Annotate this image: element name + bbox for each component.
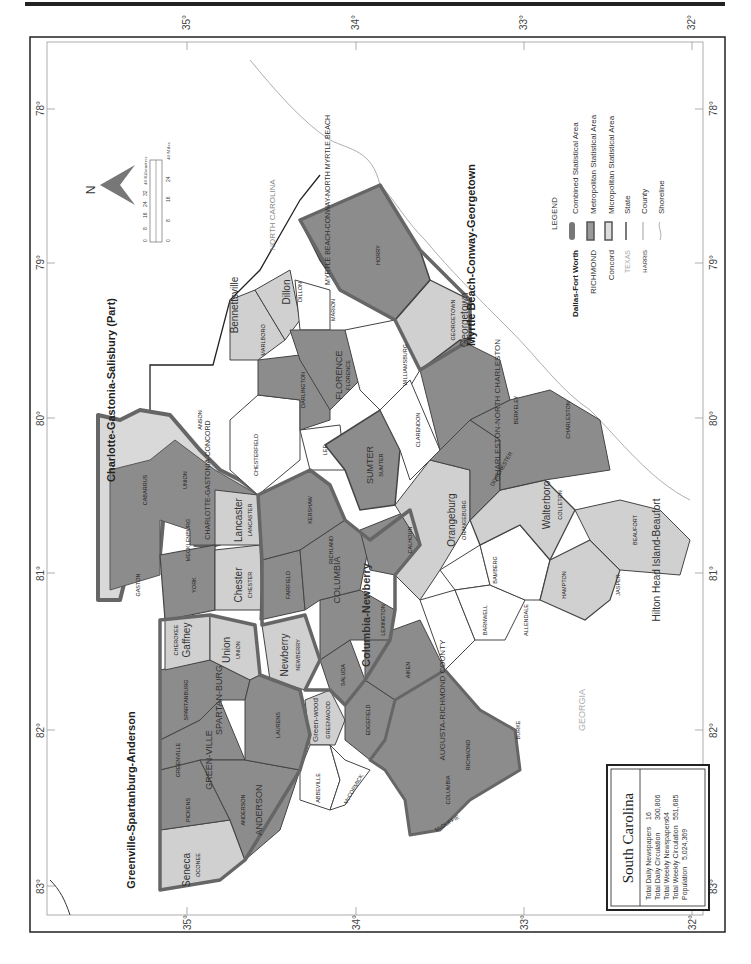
label-richmond-ga: RICHMOND [465,740,471,770]
info-row-label: Total Daily Newspapers [645,826,653,900]
south-carolina-map: 35° 34° 33° 32° 35° 34° 33° 32° 78° 79° … [0,0,751,964]
label-york: YORK [191,577,197,593]
label-pickens: PICKENS [185,798,191,822]
label-newberry-micro: Newberry [279,634,290,677]
scale-mi-0: 0 [165,239,171,242]
label-hilton-head: Hilton Head Island-Beaufort [651,498,662,621]
label-aiken: AIKEN [405,662,411,679]
label-union: UNION [235,641,241,659]
label-lexington: LEXINGTON [380,604,386,636]
label-charlotte-csa: Charlotte-Gastonia-Salisbury (Part) [105,298,117,482]
label-gaffney: Gaffney [181,623,192,658]
scale-km-32: 32 [142,190,148,196]
label-gaston: GASTON [135,573,141,596]
label-anderson: ANDERSON [240,794,246,825]
label-bennettsville: Bennettsville [229,276,240,333]
info-row-value: 551,685 [672,795,679,820]
label-barnwell: BARNWELL [482,605,488,635]
legend-title: LEGEND [550,197,559,230]
label-greenville-csa: Greenville-Spartanburg-Anderson [125,711,137,889]
lon-label-78-right: 78° [708,101,719,116]
scale-mi-24: 24 [165,176,171,182]
legend-swatch-micro [605,222,612,240]
lon-label-79-right: 79° [708,255,719,270]
label-walterboro: Walterboro [541,480,552,529]
lat-label-top-32: 32° [686,15,697,30]
info-row-label: Total Weekly Newspapers [663,819,671,900]
label-augusta-metro: AUGUSTA-RICHMOND COUNTY [438,639,447,760]
label-columbia-ga: COLUMBIA [445,775,451,804]
scale-km-8: 8 [142,227,148,230]
label-georgia: GEORGIA [577,689,587,731]
label-bamberg: BAMBERG [492,556,498,584]
label-jasper: JASPER [615,574,621,595]
label-darlington: DARLINGTON [300,372,306,408]
scale-km-16: 16 [142,212,148,218]
legend-swatch-metro [587,222,594,240]
legend-swatch-csa [569,222,575,240]
label-charleston: CHARLESTON [565,401,571,439]
label-newberry: NEWBERRY [295,639,301,671]
label-orangeburg-micro: Orangeburg [446,493,457,546]
label-berkeley: BERKELEY [513,395,519,424]
label-sumter: SUMTER [378,453,384,476]
scale-mi-8: 8 [165,219,171,222]
legend-label-county: County [640,189,649,214]
label-dillon: DILLON [297,282,303,302]
label-greenwood: GREENWOOD [325,701,331,738]
legend-label-csa: Combined Statistical Area [571,122,580,214]
label-columbia-newberry: Columbia-Newberry [360,562,372,667]
label-mecklenburg: MECKLENBURG [185,519,191,561]
legend-sample-county: HARRIS [642,250,648,273]
info-row-label: Total Daily Circulation [654,833,662,900]
info-row-value: 64 [663,812,670,820]
label-dillon-micro: Dillon [281,279,292,304]
label-anson: ANSON [197,410,203,430]
label-greenville-metro: GREEN-VILLE [204,730,214,790]
scale-mi-label: 40 Miles [166,142,171,160]
legend-sample-state: TEXAS [624,250,631,273]
info-row-label: Population [681,867,689,900]
legend-label-metro: Metropolitan Statistical Area [589,114,598,214]
lon-label-82-right: 82° [708,723,719,738]
label-calhoun: CALHOUN [407,527,413,554]
county-fairfield [260,550,305,620]
north-arrow-label: N [84,186,98,195]
legend-label-micro: Micropolitan Statistical Area [607,115,616,214]
label-williamsburg: WILLIAMSBURG [402,344,408,386]
lat-label-bottom-34: 34° [351,915,362,930]
legend-sample-csa: Dallas-Fort Worth [571,250,580,317]
lon-label-82: 82° [35,723,46,738]
lon-label-80-right: 80° [708,411,719,426]
label-myrtle-metro: MYRTLE BEACH-CONWAY-NORTH MYRTLE BEACH [324,115,331,285]
label-laurens: LAURENS [275,712,281,738]
label-union-micro: Union [221,637,232,663]
label-marlboro: MARLBORO [260,324,266,356]
info-row-value: 16 [645,812,652,820]
scale-mi-16: 16 [165,196,171,202]
label-horry: HORRY [375,245,381,265]
label-oconee: OCONEE [195,853,201,877]
scale-km-label: 40 Kilometers [143,156,148,185]
label-columbia-metro: COLUMBIA [332,556,342,603]
lat-label-top-34: 34° [350,15,361,30]
label-chester-micro: Chester [233,567,244,603]
label-saluda: SALUDA [340,664,346,686]
label-lancaster-micro: Lancaster [233,497,244,542]
label-abbeville: ABBEVILLE [315,773,321,803]
label-myrtle-csa: Myrtle Beach-Conway-Georgetown [465,164,477,346]
label-lancaster: LANCASTER [247,503,253,536]
lon-label-79: 79° [35,255,46,270]
lat-label-bottom-33: 33° [519,915,530,930]
label-beaufort: BEAUFORT [632,514,638,544]
label-florence: FLORENCE [345,360,351,390]
map-page: 35° 34° 33° 32° 35° 34° 33° 32° 78° 79° … [0,0,751,964]
label-spartanburg: SPARTANBURG [183,680,189,721]
label-greenville: GREENVILLE [175,742,181,777]
label-union-nc: UNION [182,471,188,489]
label-hampton: HAMPTON [561,571,567,598]
label-north-carolina: NORTH CAROLINA [268,179,277,251]
info-row-value: 5,024,369 [681,829,688,860]
label-greenwood-micro: Green-wood [311,698,320,742]
label-cabarrus: CABARRUS [142,474,148,505]
